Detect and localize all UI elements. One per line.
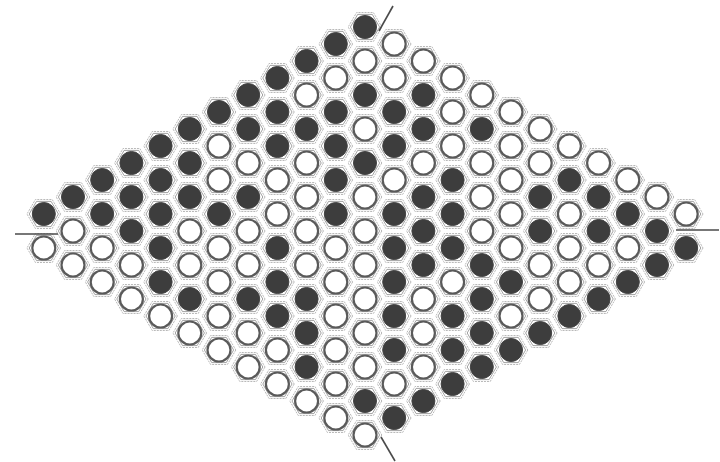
- board-cell[interactable]: [319, 404, 353, 433]
- board-cell[interactable]: [144, 200, 178, 229]
- board-cell[interactable]: [261, 166, 295, 195]
- board-cell[interactable]: [407, 353, 441, 382]
- board-cell[interactable]: [144, 302, 178, 331]
- board-cell[interactable]: [348, 149, 382, 178]
- board-cell[interactable]: [231, 149, 265, 178]
- board-cell[interactable]: [173, 319, 207, 348]
- board-cell[interactable]: [407, 47, 441, 76]
- board-cell[interactable]: [290, 285, 324, 314]
- board-cell[interactable]: [319, 302, 353, 331]
- board-cell[interactable]: [202, 234, 236, 263]
- board-cell[interactable]: [640, 217, 674, 246]
- board-cell[interactable]: [115, 217, 149, 246]
- board-cell[interactable]: [348, 421, 382, 450]
- board-cell[interactable]: [407, 285, 441, 314]
- board-cell[interactable]: [494, 132, 528, 161]
- board-cell[interactable]: [173, 149, 207, 178]
- board-cell[interactable]: [27, 200, 61, 229]
- board-cell[interactable]: [202, 132, 236, 161]
- board-cell[interactable]: [115, 149, 149, 178]
- board-cell[interactable]: [319, 30, 353, 59]
- board-cell[interactable]: [611, 166, 645, 195]
- board-cell[interactable]: [407, 251, 441, 280]
- board-cell[interactable]: [27, 234, 61, 263]
- board-cell[interactable]: [231, 353, 265, 382]
- board-cell[interactable]: [523, 217, 557, 246]
- board-cell[interactable]: [377, 404, 411, 433]
- board-cell[interactable]: [377, 98, 411, 127]
- board-cell[interactable]: [436, 234, 470, 263]
- board-cell[interactable]: [582, 183, 616, 212]
- board-cell[interactable]: [261, 302, 295, 331]
- board-cell[interactable]: [407, 149, 441, 178]
- board-cell[interactable]: [231, 319, 265, 348]
- board-cell[interactable]: [407, 115, 441, 144]
- board-cell[interactable]: [319, 268, 353, 297]
- board-cell[interactable]: [494, 234, 528, 263]
- board-cell[interactable]: [115, 285, 149, 314]
- board-cell[interactable]: [144, 166, 178, 195]
- board-cell[interactable]: [319, 370, 353, 399]
- board-cell[interactable]: [611, 234, 645, 263]
- board-cell[interactable]: [261, 98, 295, 127]
- board-cell[interactable]: [261, 336, 295, 365]
- board-cell[interactable]: [319, 336, 353, 365]
- board-cell[interactable]: [494, 200, 528, 229]
- board-cell[interactable]: [553, 200, 587, 229]
- board-cell[interactable]: [523, 319, 557, 348]
- board-cell[interactable]: [348, 81, 382, 110]
- board-cell[interactable]: [377, 268, 411, 297]
- board-cell[interactable]: [231, 285, 265, 314]
- board-cell[interactable]: [319, 234, 353, 263]
- board-cell[interactable]: [377, 64, 411, 93]
- board-cell[interactable]: [261, 64, 295, 93]
- board-cell[interactable]: [523, 251, 557, 280]
- board-cell[interactable]: [407, 183, 441, 212]
- board-cell[interactable]: [465, 319, 499, 348]
- board-cell[interactable]: [202, 336, 236, 365]
- board-cell[interactable]: [348, 115, 382, 144]
- board-cell[interactable]: [436, 98, 470, 127]
- board-cell[interactable]: [553, 234, 587, 263]
- board-cell[interactable]: [377, 30, 411, 59]
- board-cell[interactable]: [319, 166, 353, 195]
- board-cell[interactable]: [640, 251, 674, 280]
- board-cell[interactable]: [231, 115, 265, 144]
- board-cell[interactable]: [144, 132, 178, 161]
- board-cell[interactable]: [465, 115, 499, 144]
- board-cell[interactable]: [290, 149, 324, 178]
- board-cell[interactable]: [56, 217, 90, 246]
- board-cell[interactable]: [144, 234, 178, 263]
- board-cell[interactable]: [465, 353, 499, 382]
- board-cell[interactable]: [465, 81, 499, 110]
- board-cell[interactable]: [377, 370, 411, 399]
- board-cell[interactable]: [465, 285, 499, 314]
- board-cell[interactable]: [348, 353, 382, 382]
- board-cell[interactable]: [377, 166, 411, 195]
- board-cell[interactable]: [290, 353, 324, 382]
- board-cell[interactable]: [348, 387, 382, 416]
- board-cell[interactable]: [319, 64, 353, 93]
- board-cell[interactable]: [553, 166, 587, 195]
- board-cell[interactable]: [144, 268, 178, 297]
- board-cell[interactable]: [115, 251, 149, 280]
- board-cell[interactable]: [611, 268, 645, 297]
- board-cell[interactable]: [669, 200, 703, 229]
- board-cell[interactable]: [56, 251, 90, 280]
- board-cell[interactable]: [377, 302, 411, 331]
- board-cell[interactable]: [173, 251, 207, 280]
- board-cell[interactable]: [231, 251, 265, 280]
- board-cell[interactable]: [261, 268, 295, 297]
- board-cell[interactable]: [523, 183, 557, 212]
- board-cell[interactable]: [494, 166, 528, 195]
- board-cell[interactable]: [261, 234, 295, 263]
- board-cell[interactable]: [377, 132, 411, 161]
- board-cell[interactable]: [348, 13, 382, 42]
- board-cell[interactable]: [582, 285, 616, 314]
- board-cell[interactable]: [290, 251, 324, 280]
- board-cell[interactable]: [173, 285, 207, 314]
- board-cell[interactable]: [290, 387, 324, 416]
- board-cell[interactable]: [348, 47, 382, 76]
- board-cell[interactable]: [202, 166, 236, 195]
- board-cell[interactable]: [85, 200, 119, 229]
